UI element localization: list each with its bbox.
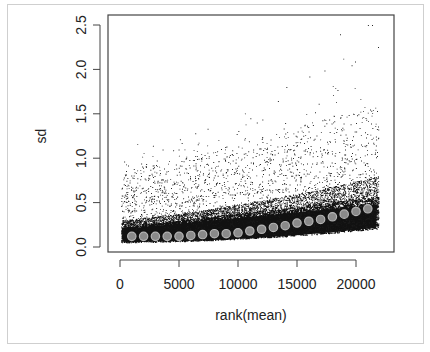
x-tick-label: 15000 [278, 276, 317, 292]
y-axis-title: sd [33, 129, 49, 144]
y-tick-label: 0.0 [73, 237, 89, 257]
y-tick-label: 1.0 [73, 148, 89, 168]
median-marker [305, 217, 313, 225]
y-tick-label: 2.5 [73, 15, 89, 35]
y-tick-label: 2.0 [73, 59, 89, 79]
median-marker [257, 225, 265, 233]
median-marker [128, 232, 136, 240]
median-marker [175, 232, 183, 240]
median-marker [328, 213, 336, 221]
data-points [121, 25, 379, 243]
median-marker [234, 229, 242, 237]
median-marker [316, 215, 324, 223]
scatter-plot: 0.00.51.01.52.02.5 05000100001500020000 … [0, 0, 430, 352]
median-marker [187, 231, 195, 239]
median-marker [163, 232, 171, 240]
median-marker [198, 230, 206, 238]
median-marker [340, 210, 348, 218]
median-marker [151, 232, 159, 240]
y-tick-label: 0.5 [73, 193, 89, 213]
x-tick-label: 0 [116, 276, 124, 292]
x-tick-label: 10000 [219, 276, 258, 292]
y-axis: 0.00.51.01.52.02.5 [73, 15, 100, 257]
x-tick-label: 20000 [337, 276, 376, 292]
x-axis: 05000100001500020000 [116, 260, 376, 292]
median-marker [364, 205, 372, 213]
median-marker [139, 232, 147, 240]
median-marker [246, 227, 254, 235]
median-marker [269, 223, 277, 231]
median-marker [281, 221, 289, 229]
median-marker [293, 219, 301, 227]
median-marker [352, 207, 360, 215]
median-marker [210, 229, 218, 237]
median-marker [222, 229, 230, 237]
x-tick-label: 5000 [163, 276, 194, 292]
y-tick-label: 1.5 [73, 104, 89, 124]
x-axis-title: rank(mean) [215, 307, 287, 323]
